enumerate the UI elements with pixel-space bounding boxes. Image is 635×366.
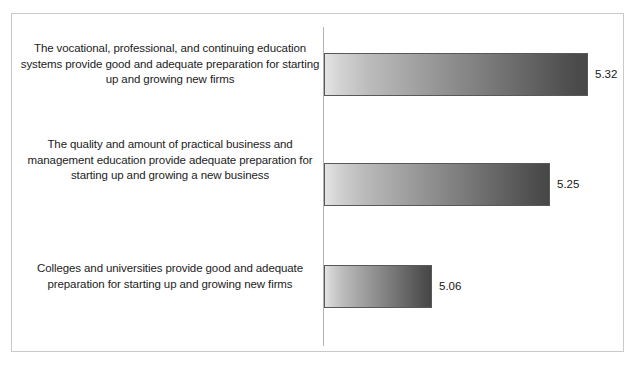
bar-chart-figure: The vocational, professional, and contin… (0, 0, 635, 366)
bar-rect[interactable] (324, 265, 432, 308)
bar-row: The quality and amount of practical busi… (12, 117, 623, 217)
bar-row: The vocational, professional, and contin… (12, 14, 623, 114)
bar-rect[interactable] (324, 163, 550, 206)
plot-area: The vocational, professional, and contin… (12, 14, 623, 351)
bar-category-label: Colleges and universities provide good a… (20, 261, 320, 292)
bar-track: 5.32 (324, 14, 623, 114)
bar-value-label: 5.25 (557, 178, 579, 191)
bar-track: 5.06 (324, 222, 623, 322)
bar-track: 5.25 (324, 117, 623, 217)
bar-rect[interactable] (324, 53, 588, 96)
bar-category-label: The quality and amount of practical busi… (20, 137, 320, 184)
bar-row: Colleges and universities provide good a… (12, 222, 623, 322)
bar-category-label: The vocational, professional, and contin… (20, 41, 320, 88)
chart-frame-border: The vocational, professional, and contin… (11, 13, 624, 352)
bar-value-label: 5.06 (439, 280, 461, 293)
bar-value-label: 5.32 (595, 68, 617, 81)
